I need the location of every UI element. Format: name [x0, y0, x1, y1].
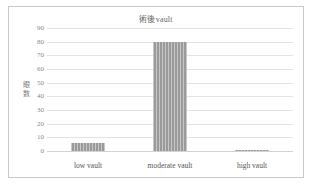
y-axis-tick-label: 30	[37, 107, 44, 114]
y-axis-tick-label: 90	[37, 25, 44, 32]
y-axis-tick-label: 10	[37, 134, 44, 141]
bar[interactable]	[235, 150, 269, 151]
chart-frame: 術後vault 眼 数 9080706050403020100low vault…	[8, 6, 304, 178]
chart-title: 術後vault	[9, 15, 303, 25]
y-axis-tick-label: 60	[37, 66, 44, 73]
y-axis-tick-label: 80	[37, 38, 44, 45]
y-axis-label-char: 数	[21, 90, 31, 99]
y-axis-tick-label: 40	[37, 93, 44, 100]
y-axis-tick-label: 20	[37, 120, 44, 127]
x-axis-tick-label: low vault	[74, 161, 102, 170]
x-axis-tick-label: moderate vault	[148, 161, 193, 170]
plot-area: 9080706050403020100low vaultmoderate vau…	[47, 28, 293, 151]
y-axis-tick-label: 0	[41, 148, 45, 155]
gridline	[47, 151, 293, 152]
y-axis-label-char: 眼	[21, 81, 31, 90]
y-axis-label: 眼 数	[21, 81, 31, 98]
bar[interactable]	[71, 143, 105, 151]
x-axis-tick-label: high vault	[237, 161, 267, 170]
bar[interactable]	[153, 42, 187, 151]
y-axis-tick-label: 50	[37, 79, 44, 86]
gridline	[47, 28, 293, 29]
y-axis-tick-label: 70	[37, 52, 44, 59]
